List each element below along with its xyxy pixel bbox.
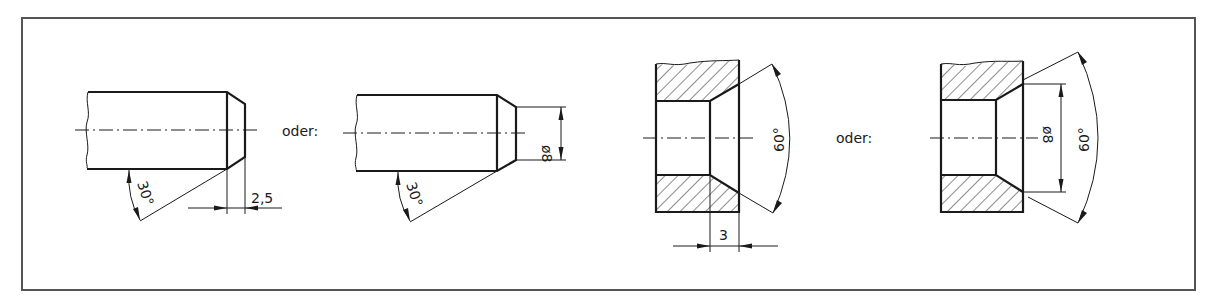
arrow-icon — [403, 208, 410, 221]
drawing-frame — [22, 18, 1195, 290]
view-shaft-chamfer-length: 2,5 30° — [75, 92, 282, 221]
depth-label: 3 — [719, 227, 728, 243]
diameter-label: ø8 — [539, 145, 555, 162]
angle-label: 30° — [403, 180, 426, 209]
arrow-icon — [772, 64, 781, 77]
arrow-icon — [1059, 179, 1064, 192]
arrow-icon — [396, 172, 401, 185]
arrow-icon — [214, 206, 227, 211]
angle-label: 60° — [1076, 127, 1092, 152]
section-hatch — [656, 60, 739, 101]
arrow-icon — [1078, 52, 1087, 65]
view-bore-countersink-diameter: ø8 60° — [930, 52, 1098, 223]
angle-leader — [1023, 52, 1078, 80]
angle-label: 60° — [771, 127, 787, 152]
arrow-icon — [697, 244, 710, 249]
length-dimension-label: 2,5 — [251, 190, 273, 206]
diameter-label: ø8 — [1040, 126, 1056, 143]
technical-drawing: 2,5 30° oder: ø8 30° — [0, 0, 1224, 306]
section-hatch — [941, 175, 1023, 213]
arrow-icon — [245, 206, 258, 211]
section-hatch — [941, 61, 1023, 100]
angle-leader — [739, 193, 773, 213]
alternative-separator: oder: — [282, 123, 318, 139]
angle-label: 30° — [134, 179, 157, 208]
angle-leader — [1028, 197, 1078, 223]
arrow-icon — [127, 170, 132, 183]
arrow-icon — [1059, 84, 1064, 97]
section-hatch — [656, 175, 739, 213]
arrow-icon — [559, 107, 564, 120]
arrow-icon — [773, 200, 782, 213]
arrow-icon — [559, 147, 564, 160]
view-shaft-chamfer-diameter: ø8 30° — [343, 95, 566, 222]
arrow-icon — [739, 244, 752, 249]
alternative-separator: oder: — [836, 130, 872, 146]
view-bore-countersink-depth: 3 60° — [643, 60, 790, 252]
angle-leader — [739, 64, 772, 84]
arrow-icon — [1078, 210, 1087, 223]
arrow-icon — [133, 207, 140, 220]
